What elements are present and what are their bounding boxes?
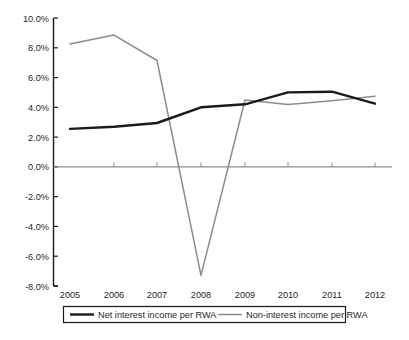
- x-tick-label-2006: 2006: [104, 290, 124, 300]
- y-tick-label-10: 10.0%: [23, 14, 49, 24]
- x-tick-label-2008: 2008: [191, 290, 211, 300]
- x-tick-label-2007: 2007: [147, 290, 167, 300]
- x-tick-label-2005: 2005: [60, 290, 80, 300]
- chart-legend: Net interest income per RWA Non-interest…: [64, 307, 369, 323]
- y-tick-label-4: 4.0%: [28, 103, 49, 113]
- y-tick-label-neg4: -4.0%: [25, 222, 49, 232]
- y-tick-label-2: 2.0%: [28, 133, 49, 143]
- y-tick-label-neg8: -8.0%: [25, 282, 49, 292]
- series-line-net-interest-income: [70, 92, 375, 129]
- x-tick-label-2011: 2011: [322, 290, 342, 300]
- y-tick-label-6: 6.0%: [28, 73, 49, 83]
- y-tick-label-8: 8.0%: [28, 43, 49, 53]
- chart-figure: 10.0% 8.0% 6.0% 4.0% 2.0% 0.0% -2.0% -4.…: [0, 0, 409, 340]
- y-tick-label-neg6: -6.0%: [25, 252, 49, 262]
- legend-label-non-interest-income: Non-interest income per RWA: [246, 310, 368, 320]
- x-tick-label-2012: 2012: [365, 290, 385, 300]
- legend-label-net-interest-income: Net interest income per RWA: [98, 310, 217, 320]
- y-tick-label-neg2: -2.0%: [25, 192, 49, 202]
- zero-baseline-ticks: [114, 163, 375, 167]
- x-tick-label-2009: 2009: [235, 290, 255, 300]
- x-tick-label-2010: 2010: [278, 290, 298, 300]
- line-chart-plot: 10.0% 8.0% 6.0% 4.0% 2.0% 0.0% -2.0% -4.…: [0, 0, 409, 340]
- y-tick-label-0: 0.0%: [28, 162, 49, 172]
- series-line-non-interest-income: [70, 35, 375, 275]
